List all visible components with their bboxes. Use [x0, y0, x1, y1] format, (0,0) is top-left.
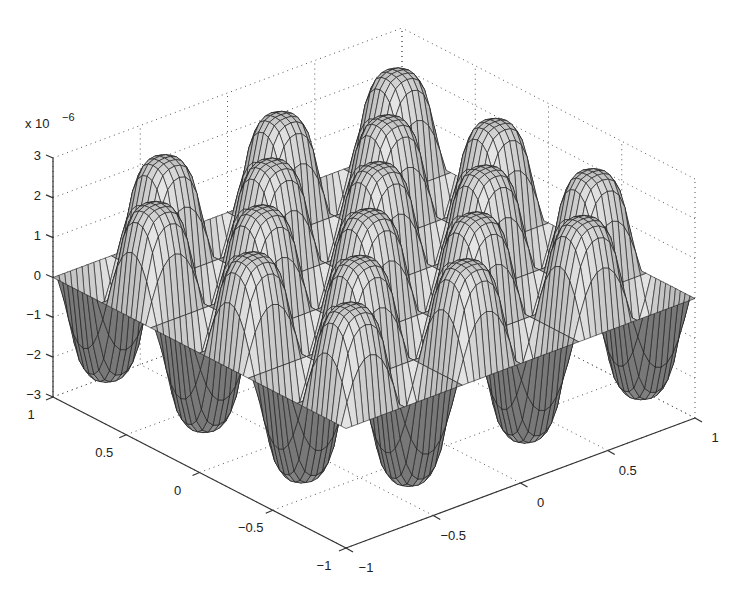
- y-tick-label: −1: [317, 558, 332, 573]
- y-tick-label: −0.5: [238, 520, 264, 535]
- x-tick-label: 0: [537, 495, 544, 510]
- y-tick-label: 0: [174, 483, 181, 498]
- z-scale-label: x 10: [25, 116, 50, 131]
- z-tick-label: −1: [26, 307, 41, 322]
- x-tick-label: −1: [359, 560, 374, 575]
- x-tick-label: 0.5: [619, 463, 637, 478]
- y-tick-label: 1: [27, 407, 34, 422]
- z-tick-label: 0: [34, 268, 41, 283]
- x-tick-label: −0.5: [440, 528, 466, 543]
- y-tick-label: 0.5: [95, 445, 113, 460]
- z-tick-label: 2: [34, 188, 41, 203]
- z-tick-label: −2: [26, 347, 41, 362]
- z-scale-exponent: −6: [62, 111, 75, 123]
- z-tick-label: −3: [26, 387, 41, 402]
- x-tick-label: 1: [711, 430, 718, 445]
- mesh-surface: [53, 68, 695, 487]
- z-tick-label: 3: [34, 148, 41, 163]
- z-tick-label: 1: [34, 228, 41, 243]
- surface-plot: −3−2−10123x 10−6−1−0.500.51−1−0.500.51: [0, 0, 733, 590]
